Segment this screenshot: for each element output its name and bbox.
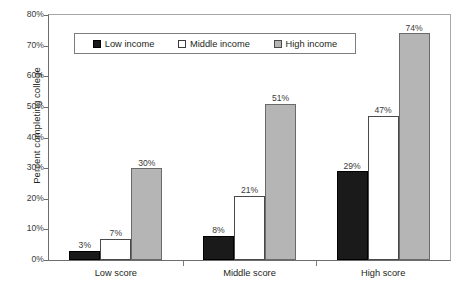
bar-high-income-low-score: 30% <box>131 168 162 260</box>
x-axis-label-high-score: High score <box>361 268 405 278</box>
legend-item-middle-income: Middle income <box>178 39 250 49</box>
bar-high-income-middle-score: 51% <box>265 104 296 260</box>
legend-swatch-low-income-icon <box>93 40 101 48</box>
legend-swatch-middle-income-icon <box>178 40 186 48</box>
y-tick-label: 10% <box>10 224 44 233</box>
y-tick-label: 20% <box>10 194 44 203</box>
bar-value-label: 29% <box>344 162 361 171</box>
legend-label-low-income: Low income <box>105 39 155 49</box>
legend-label-high-income: High income <box>286 39 338 49</box>
bar-value-label: 21% <box>241 186 258 195</box>
legend-item-high-income: High income <box>274 39 338 49</box>
bar-low-income-low-score: 3% <box>69 251 100 260</box>
bar-middle-income-middle-score: 21% <box>234 196 265 260</box>
bar-value-label: 30% <box>138 159 155 168</box>
y-tick-label: 0% <box>10 255 44 264</box>
bar-low-income-high-score: 29% <box>337 171 368 260</box>
y-tick-label: 60% <box>10 71 44 80</box>
bar-value-label: 51% <box>272 94 289 103</box>
bar-value-label: 74% <box>406 24 423 33</box>
legend-item-low-income: Low income <box>93 39 155 49</box>
bar-value-label: 47% <box>375 106 392 115</box>
bar-low-income-middle-score: 8% <box>203 236 234 261</box>
legend-swatch-high-income-icon <box>274 40 282 48</box>
bar-value-label: 7% <box>110 229 122 238</box>
legend-label-middle-income: Middle income <box>190 39 250 49</box>
y-tick-label: 70% <box>10 41 44 50</box>
y-tick-label: 30% <box>10 163 44 172</box>
bar-chart-figure: Percent completing college 80%70%60%50%4… <box>0 0 463 292</box>
y-tick-label: 80% <box>10 10 44 19</box>
x-axis-category-separator <box>316 261 317 266</box>
x-axis-label-middle-score: Middle score <box>223 268 276 278</box>
bar-middle-income-high-score: 47% <box>368 116 399 260</box>
y-axis-ticks: 80%70%60%50%40%30%20%10%0% <box>0 0 44 292</box>
bar-value-label: 8% <box>212 226 224 235</box>
bar-middle-income-low-score: 7% <box>100 239 131 260</box>
x-axis-label-low-score: Low score <box>95 268 137 278</box>
y-tick-label: 50% <box>10 102 44 111</box>
x-axis-category-separator <box>183 261 184 266</box>
y-tick-label: 40% <box>10 133 44 142</box>
chart-legend: Low income Middle income High income <box>74 33 356 54</box>
bar-value-label: 3% <box>79 241 91 250</box>
bar-high-income-high-score: 74% <box>399 33 430 260</box>
